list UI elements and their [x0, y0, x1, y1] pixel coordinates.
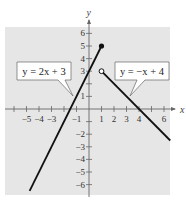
plot-background — [5, 27, 170, 195]
x-tick-label: −4 — [34, 114, 44, 124]
closed-endpoint-icon — [99, 43, 104, 48]
y-axis-arrow-icon — [87, 19, 91, 24]
open-endpoint-icon — [99, 69, 104, 74]
x-tick-label: 6 — [162, 114, 167, 124]
x-tick-label: −5 — [22, 114, 32, 124]
y-tick-label: 1 — [81, 91, 86, 101]
x-tick-label: 2 — [112, 114, 117, 124]
x-tick-label: 4 — [137, 114, 142, 124]
x-tick-label: −3 — [47, 114, 57, 124]
equation-label-2: y = −x + 4 — [120, 66, 165, 77]
piecewise-function-graph: xy−5−4−3−11234665431−2−3−4−5−6y = 2x + 3… — [0, 0, 186, 205]
x-tick-label: −1 — [72, 114, 82, 124]
y-tick-label: −3 — [75, 142, 85, 152]
y-tick-label: −6 — [75, 180, 85, 190]
y-tick-label: 5 — [81, 41, 86, 51]
x-tick-label: 1 — [99, 114, 104, 124]
y-tick-label: 3 — [81, 66, 86, 76]
y-tick-label: −5 — [75, 167, 85, 177]
y-tick-label: 6 — [81, 28, 86, 38]
x-axis-label: x — [179, 104, 185, 115]
x-tick-label: 3 — [124, 114, 129, 124]
y-axis-label: y — [86, 7, 92, 18]
y-tick-label: 4 — [81, 54, 86, 64]
equation-label-1: y = 2x + 3 — [22, 66, 65, 77]
x-axis-arrow-icon — [171, 107, 176, 111]
y-tick-label: −2 — [75, 129, 85, 139]
y-tick-label: −4 — [75, 154, 85, 164]
